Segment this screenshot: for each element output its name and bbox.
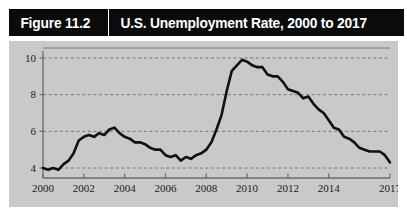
unemployment-rate-series	[43, 60, 390, 170]
y-tick-label: 8	[31, 88, 37, 100]
x-tick-label: 2014	[318, 182, 341, 194]
x-tick-label: 2002	[73, 182, 95, 194]
chart-panel: 46810 2000200220042006200820102012201420…	[9, 41, 398, 207]
x-axis-tick-labels: 200020022004200620082010201220142017	[32, 182, 398, 194]
y-tick-label: 10	[25, 52, 37, 64]
x-tick-label: 2010	[236, 182, 259, 194]
x-tick-label: 2008	[195, 182, 218, 194]
x-tick-label: 2006	[154, 182, 177, 194]
x-tick-label: 2017	[379, 182, 398, 194]
x-tick-label: 2012	[277, 182, 299, 194]
y-tick-label: 6	[31, 125, 37, 137]
figure-number-label: Figure 11.2	[9, 15, 90, 31]
figure-title-bar: Figure 11.2 U.S. Unemployment Rate, 2000…	[9, 9, 404, 36]
x-tick-label: 2000	[32, 182, 55, 194]
x-axis-tick-marks	[43, 174, 390, 179]
y-axis-tick-labels: 46810	[25, 52, 37, 174]
figure-container: Figure 11.2 U.S. Unemployment Rate, 2000…	[0, 0, 407, 220]
figure-title-text: U.S. Unemployment Rate, 2000 to 2017	[109, 15, 367, 31]
x-tick-label: 2004	[114, 182, 137, 194]
y-tick-label: 4	[31, 162, 37, 174]
grid-lines	[40, 58, 391, 168]
unemployment-line-chart: 46810 2000200220042006200820102012201420…	[9, 41, 398, 207]
